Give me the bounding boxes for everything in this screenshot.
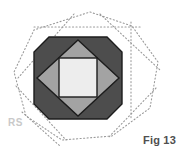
figure-caption: Fig 13 [143, 135, 176, 146]
medallion-group [34, 37, 122, 119]
figure-container: RS Fig 13 [0, 0, 182, 153]
watermark-text: RS [8, 118, 23, 128]
geometric-construction-diagram [0, 0, 182, 153]
center-square-shape [59, 58, 97, 97]
